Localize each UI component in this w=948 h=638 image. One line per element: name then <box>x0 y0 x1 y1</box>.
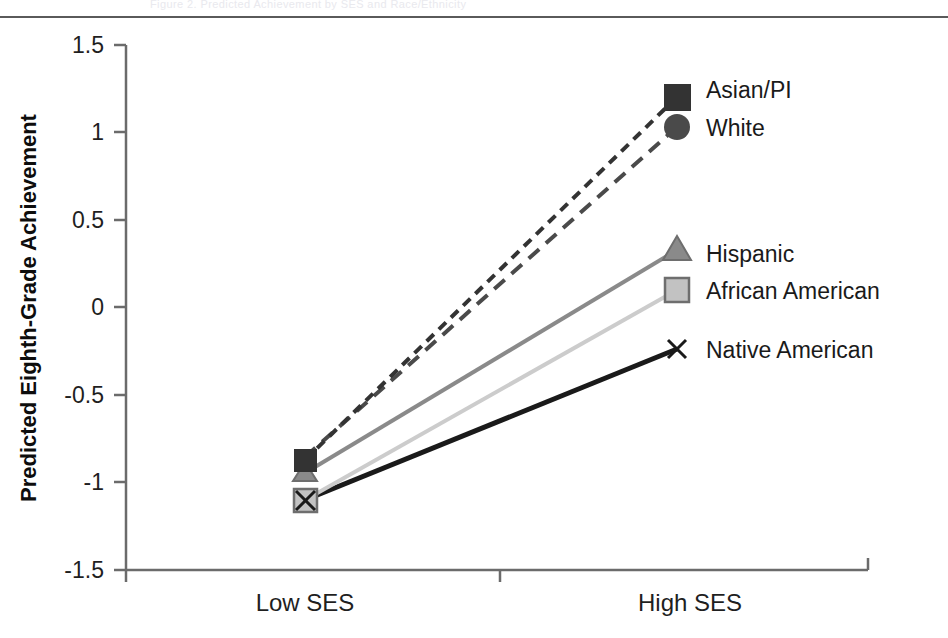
figure-page: Figure 2. Predicted Achievement by SES a… <box>0 0 948 638</box>
series-line-hispanic <box>305 250 677 473</box>
y-tick-label-4: -0.5 <box>64 382 104 408</box>
series-line-asian-pi <box>305 97 677 460</box>
y-axis-title: Predicted Eighth-Grade Achievement <box>16 113 41 502</box>
series-line-african-american <box>305 290 677 500</box>
y-tick-label-3: 0 <box>91 294 104 320</box>
y-axis-ticks <box>114 45 126 570</box>
x-tick-label-low-ses: Low SES <box>256 589 355 616</box>
marker-white-high <box>664 114 690 140</box>
legend-label-white: White <box>706 115 765 141</box>
y-tick-label-2: 0.5 <box>72 207 104 233</box>
legend-label-hispanic: Hispanic <box>706 241 794 267</box>
legend-label-native-american: Native American <box>706 337 873 363</box>
y-tick-label-1: 1 <box>91 119 104 145</box>
legend-label-african-american: African American <box>706 278 880 304</box>
legend-label-asian-pi: Asian/PI <box>706 77 792 103</box>
marker-asian-pi-low <box>294 449 317 472</box>
marker-asian-pi-high <box>664 84 691 111</box>
y-tick-label-5: -1 <box>84 469 104 495</box>
y-tick-label-6: -1.5 <box>64 557 104 583</box>
series-line-native-american <box>305 349 677 500</box>
x-tick-label-high-ses: High SES <box>638 589 742 616</box>
marker-african-american-high <box>665 278 689 302</box>
marker-hispanic-high <box>663 236 691 260</box>
line-chart: Predicted Eighth-Grade Achievement 1.5 1… <box>0 0 948 638</box>
y-tick-label-0: 1.5 <box>72 32 104 58</box>
